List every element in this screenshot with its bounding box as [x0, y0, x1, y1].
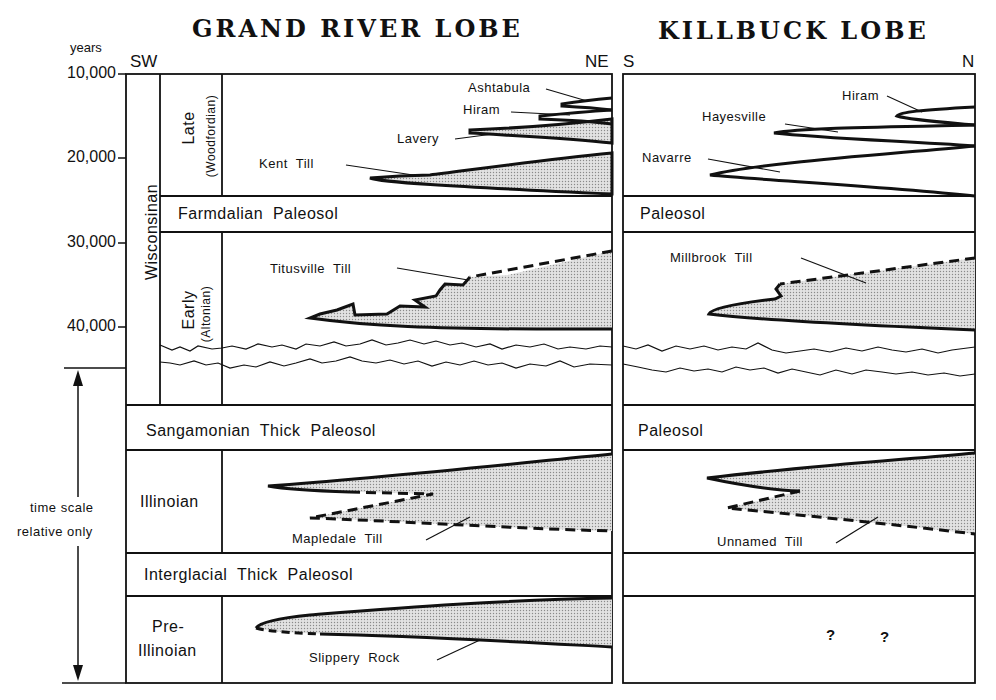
arrow-up-icon: [73, 370, 83, 386]
label-kent-till: Kent Till: [259, 156, 314, 171]
direction-ne: NE: [585, 52, 609, 72]
unknown-marker-2: ?: [880, 628, 889, 645]
label-mapledale-till: Mapledale Till: [292, 531, 383, 546]
label-lavery: Lavery: [397, 131, 439, 146]
axis-unit-label: years: [70, 40, 102, 55]
stage-pre-illinoian-line2: Illinoian: [138, 642, 197, 660]
unnamed-till-wedge: [707, 453, 975, 534]
ashtabula-till-wedge: [562, 98, 612, 110]
mapledale-till-wedge: [268, 454, 612, 531]
unknown-marker-1: ?: [826, 626, 835, 643]
grand-river-lobe-title: GRAND RIVER LOBE: [192, 14, 523, 43]
slippery-rock-wedge: [256, 598, 612, 647]
time-scale-note-line2: relative only: [17, 524, 93, 539]
killbuck-lobe-title: KILLBUCK LOBE: [658, 16, 929, 45]
hiram-till-wedge: [540, 110, 612, 124]
stage-late: Late: [180, 98, 200, 158]
millbrook-till-wedge: [709, 258, 975, 330]
stage-illinoian: Illinoian: [140, 493, 199, 511]
label-navarre: Navarre: [642, 150, 692, 165]
killbuck-paleosol-upper: Paleosol: [640, 205, 705, 223]
stage-early: Early: [180, 275, 200, 345]
label-hiram-grand-river: Hiram: [463, 102, 500, 117]
killbuck-frame: [623, 74, 975, 683]
tick-40000: 40,000: [16, 317, 116, 335]
paleosol-interglacial: Interglacial Thick Paleosol: [144, 566, 353, 584]
tick-30000: 30,000: [16, 233, 116, 251]
label-unnamed-till: Unnamed Till: [717, 534, 803, 549]
label-millbrook-till: Millbrook Till: [670, 250, 753, 265]
tick-10000: 10,000: [16, 64, 116, 82]
direction-sw: SW: [130, 52, 157, 72]
titusville-till-wedge: [310, 251, 612, 329]
stage-early-altonian: (Altonian): [199, 274, 215, 354]
label-hiram-killbuck: Hiram: [842, 88, 879, 103]
time-scale-note-line1: time scale: [30, 500, 94, 515]
stage-wisconsinan: Wisconsinan: [143, 162, 163, 302]
paleosol-farmdalian: Farmdalian Paleosol: [178, 205, 338, 223]
direction-s: S: [623, 52, 634, 72]
paleosol-sangamonian: Sangamonian Thick Paleosol: [146, 422, 376, 440]
stage-late-woodfordian: (Woodfordian): [204, 81, 220, 191]
label-titusville-till: Titusville Till: [270, 261, 351, 276]
direction-n: N: [962, 52, 974, 72]
tick-20000: 20,000: [16, 148, 116, 166]
label-hayesville: Hayesville: [702, 109, 766, 124]
killbuck-paleosol-lower: Paleosol: [638, 422, 703, 440]
arrow-down-icon: [73, 665, 83, 681]
unconformity-lines: [160, 340, 975, 376]
stage-pre-illinoian-line1: Pre-: [152, 618, 184, 636]
label-ashtabula: Ashtabula: [468, 80, 530, 95]
label-slippery-rock: Slippery Rock: [309, 650, 400, 665]
